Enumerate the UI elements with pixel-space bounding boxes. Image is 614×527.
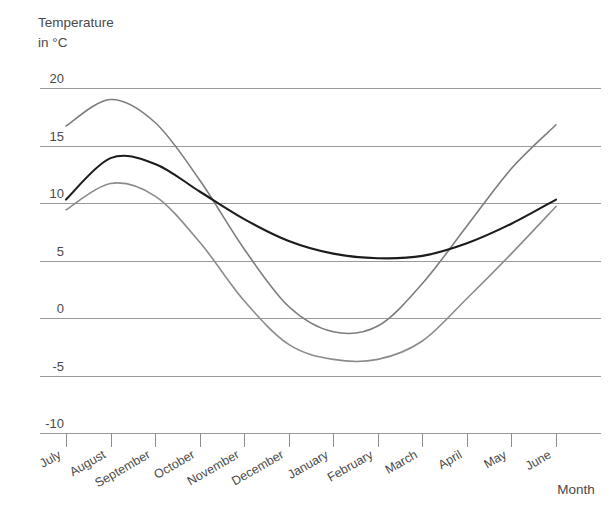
y-tick-label: 0 <box>57 301 64 316</box>
y-tick-label: 15 <box>50 129 64 144</box>
x-tick-marks-group <box>67 434 557 447</box>
y-tick-label: -10 <box>45 416 64 431</box>
x-tick-label: January <box>285 447 331 482</box>
y-tick-label: 10 <box>50 186 64 201</box>
chart-canvas: Temperature in °C Month 20151050-5-10 Ju… <box>0 0 614 527</box>
y-axis-title-line1: Temperature <box>38 15 114 30</box>
x-axis-title: Month <box>557 482 595 497</box>
y-tick-label: -5 <box>52 359 64 374</box>
x-tick-labels-group: JulyAugustSeptemberOctoberNovemberDecemb… <box>37 447 553 490</box>
y-tick-label: 20 <box>50 71 64 86</box>
x-tick-label: June <box>523 447 554 473</box>
y-tick-label: 5 <box>57 244 64 259</box>
x-tick-label: April <box>436 447 465 472</box>
series-line-maximum-temperature <box>66 99 556 333</box>
x-tick-label: February <box>325 447 376 485</box>
x-tick-label: March <box>383 447 420 477</box>
y-axis-title-line2: in °C <box>38 35 68 50</box>
series-group <box>66 99 556 361</box>
series-line-minimum-temperature <box>66 183 556 362</box>
x-tick-label: May <box>481 447 509 471</box>
temperature-line-chart: Temperature in °C Month 20151050-5-10 Ju… <box>0 0 614 527</box>
series-line-mean-temperature <box>66 156 556 259</box>
x-tick-label: July <box>37 447 64 471</box>
gridlines-group <box>40 89 601 434</box>
